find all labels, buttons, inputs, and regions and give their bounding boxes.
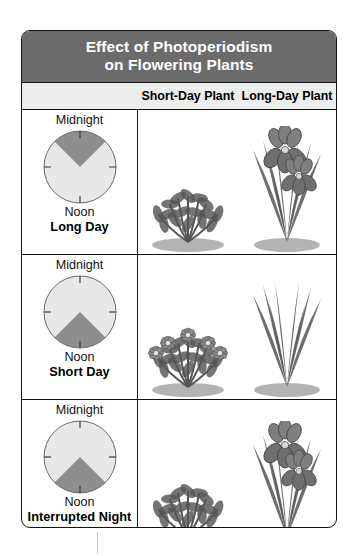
- column-header-long-day-plant: Long-Day Plant: [238, 90, 336, 102]
- iris-plant-vegetative: [241, 271, 333, 399]
- clock-wrapper: [42, 419, 118, 495]
- flower-bloom: [212, 346, 227, 360]
- long-day-plant-cell: [238, 110, 336, 254]
- short-day-plant-cell: [138, 110, 238, 254]
- soil-mound: [254, 238, 320, 252]
- flower-bloom: [148, 346, 163, 360]
- clock-cell: MidnightNoonLong Day: [22, 110, 138, 254]
- column-header-row: Short-Day Plant Long-Day Plant: [22, 82, 336, 110]
- clock-cell: MidnightNoonShort Day: [22, 255, 138, 399]
- long-day-plant-cell: [238, 400, 336, 528]
- noon-label: Noon: [64, 351, 94, 365]
- short-day-plant-cell: [138, 255, 238, 399]
- page-title: Effect of Photoperiodism on Flowering Pl…: [22, 31, 336, 82]
- iris-leaf-blade: [263, 285, 287, 387]
- title-line-2: on Flowering Plants: [28, 56, 330, 74]
- iris-plant-flowering: [241, 126, 333, 254]
- iris-leaf-blade: [287, 288, 311, 387]
- soil-mound: [254, 383, 320, 397]
- column-header-short-day-plant: Short-Day Plant: [138, 90, 238, 102]
- title-line-1: Effect of Photoperiodism: [86, 38, 273, 55]
- flower-bloom: [200, 336, 215, 350]
- condition-label: Short Day: [49, 365, 109, 380]
- iris-plant-flowering: [241, 421, 333, 528]
- rows-container: MidnightNoonLong DayMidnightNoonShort Da…: [22, 110, 336, 528]
- photoperiod-clock: [42, 129, 118, 205]
- flower-bloom: [180, 328, 195, 342]
- table-row: MidnightNoonShort Day: [22, 255, 336, 400]
- midnight-label: Midnight: [56, 114, 104, 128]
- scan-artifact-line: [97, 532, 98, 554]
- bush-plant-flowering: [142, 295, 234, 399]
- bush-plant-vegetative: [142, 150, 234, 254]
- noon-label: Noon: [64, 496, 94, 510]
- clock-wrapper: [42, 129, 118, 205]
- condition-label: Interrupted Night: [28, 510, 132, 525]
- table-row: MidnightNoonInterrupted Night: [22, 400, 336, 528]
- bush-plant-vegetative: [142, 445, 234, 528]
- midnight-label: Midnight: [56, 404, 104, 418]
- clock-wrapper: [42, 274, 118, 350]
- table-row: MidnightNoonLong Day: [22, 110, 336, 255]
- noon-label: Noon: [64, 206, 94, 220]
- photoperiod-clock: [42, 274, 118, 350]
- photoperiodism-card: Effect of Photoperiodism on Flowering Pl…: [21, 30, 337, 528]
- photoperiod-clock: [42, 419, 118, 495]
- short-day-plant-cell: [138, 400, 238, 528]
- condition-label: Long Day: [50, 220, 108, 235]
- long-day-plant-cell: [238, 255, 336, 399]
- midnight-label: Midnight: [56, 259, 104, 273]
- clock-cell: MidnightNoonInterrupted Night: [22, 400, 138, 528]
- flower-bloom: [160, 336, 175, 350]
